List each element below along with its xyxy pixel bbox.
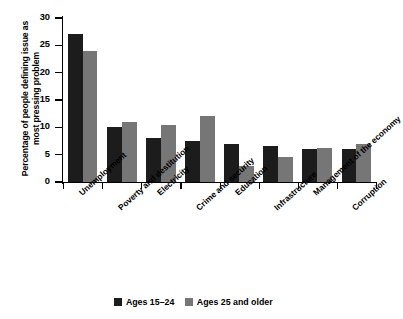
legend-swatch (114, 298, 122, 306)
bar (68, 34, 83, 182)
y-axis-tick (55, 127, 63, 128)
y-axis-tick-label: 0 (24, 176, 50, 186)
y-axis-tick-label: 5 (24, 149, 50, 159)
bar (83, 51, 98, 182)
bar (263, 146, 278, 182)
bars-layer (63, 18, 376, 182)
legend-label: Ages 25 and older (197, 297, 273, 307)
x-axis-tick (259, 183, 260, 189)
bar (278, 157, 293, 182)
x-axis-tick (63, 183, 64, 189)
legend-item: Ages 15–24 (114, 297, 174, 307)
y-axis-tick-label: 20 (24, 67, 50, 77)
chart-legend: Ages 15–24Ages 25 and older (0, 297, 387, 307)
y-axis-tick (55, 72, 63, 73)
y-axis-tick-label: 30 (24, 12, 50, 22)
legend-label: Ages 15–24 (126, 297, 174, 307)
bar (200, 116, 215, 182)
legend-swatch (185, 298, 193, 306)
x-axis-tick (337, 183, 338, 189)
y-axis-tick (55, 45, 63, 46)
y-axis-tick (55, 181, 63, 182)
y-axis-tick (55, 99, 63, 100)
x-axis-tick (102, 183, 103, 189)
y-axis-tick (55, 17, 63, 18)
y-axis-tick-label: 25 (24, 39, 50, 49)
y-axis-tick (55, 154, 63, 155)
legend-item: Ages 25 and older (185, 297, 272, 307)
y-axis-tick-label: 15 (24, 94, 50, 104)
y-axis-tick-label: 10 (24, 121, 50, 131)
x-axis-tick (180, 183, 181, 189)
